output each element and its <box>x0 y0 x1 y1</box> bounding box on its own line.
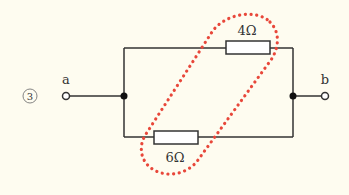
terminal-b <box>322 93 329 100</box>
svg-text:3: 3 <box>27 91 33 102</box>
junction-right <box>290 93 297 100</box>
resistor-bottom <box>154 131 198 144</box>
circuit-svg: 3 a b 4Ω 6Ω <box>0 0 349 195</box>
wires <box>69 48 322 137</box>
highlight-loop <box>141 14 277 174</box>
resistor-top-label: 4Ω <box>237 23 256 38</box>
terminal-a-label: a <box>62 72 70 87</box>
junction-left <box>121 93 128 100</box>
circuit-diagram: 3 a b 4Ω 6Ω <box>0 0 349 195</box>
problem-number: 3 <box>23 89 37 103</box>
terminal-b-label: b <box>321 72 329 87</box>
resistor-top <box>226 41 270 54</box>
terminal-a <box>63 93 70 100</box>
resistor-bottom-label: 6Ω <box>165 150 184 165</box>
